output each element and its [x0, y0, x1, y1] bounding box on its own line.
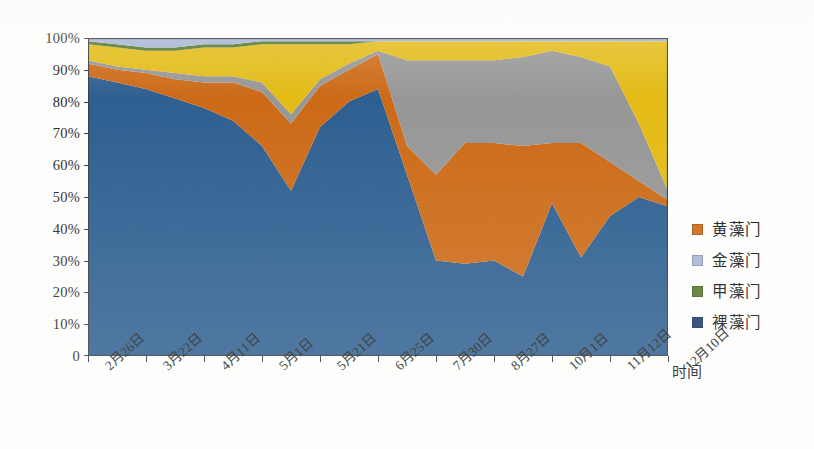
x-tick-label: 2月26日: [102, 362, 112, 373]
legend-label: 金藻门: [712, 253, 762, 269]
x-axis-title: 时间: [672, 364, 702, 380]
legend-swatch-icon: [692, 286, 703, 297]
y-tick-label: 80%: [2, 95, 80, 109]
y-tick-label: 10%: [2, 317, 80, 331]
x-tick-label: 7月30日: [450, 362, 460, 373]
legend-item[interactable]: 金藻门: [692, 245, 810, 276]
x-tick-label: 5月21日: [334, 362, 344, 373]
y-tick-label: 50%: [2, 190, 80, 204]
y-tick-label: 20%: [2, 285, 80, 299]
y-tick-label: 90%: [2, 63, 80, 77]
legend-label: 黄藻门: [712, 222, 762, 238]
x-tick-label: 10月1日: [566, 362, 576, 373]
y-tick-label: 70%: [2, 126, 80, 140]
legend-item[interactable]: 黄藻门: [692, 214, 810, 245]
plot-texture: [88, 38, 668, 356]
y-tick-label: 40%: [2, 222, 80, 236]
y-tick-label: 60%: [2, 158, 80, 172]
legend-item[interactable]: 裸藻门: [692, 307, 810, 338]
x-tick-label: 3月22日: [160, 362, 170, 373]
x-tick-label: 6月25日: [392, 362, 402, 373]
legend-item[interactable]: 甲藻门: [692, 276, 810, 307]
x-axis-labels: 2月26日3月22日4月11日5月1日5月21日6月25日7月30日8月27日1…: [0, 362, 700, 442]
y-tick-label: 30%: [2, 254, 80, 268]
x-tick-label: 5月1日: [276, 362, 286, 373]
y-axis-labels: 100%90%80%70%60%50%40%30%20%10%0: [0, 30, 80, 366]
x-tick-label: 8月27日: [508, 362, 518, 373]
legend-swatch-icon: [692, 224, 703, 235]
stacked-area-chart: [88, 38, 668, 356]
legend-label: 裸藻门: [712, 315, 762, 331]
legend-swatch-icon: [692, 255, 703, 266]
plot-area: [88, 38, 668, 356]
legend-label: 甲藻门: [712, 284, 762, 300]
legend-swatch-icon: [692, 317, 703, 328]
y-tick-label: 100%: [2, 31, 80, 45]
x-tick-label: 11月12日: [624, 362, 634, 373]
y-tick-label: 0: [2, 349, 80, 363]
chart-figure: 100%90%80%70%60%50%40%30%20%10%0 2月26日3月…: [0, 0, 814, 449]
chart-legend: 黄藻门金藻门甲藻门裸藻门: [692, 214, 810, 338]
x-tick-label: 4月11日: [218, 362, 228, 373]
